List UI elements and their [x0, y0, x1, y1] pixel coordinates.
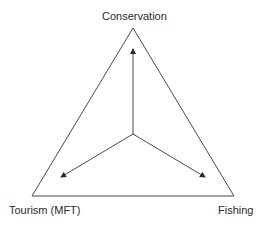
arrow-fishing — [133, 134, 205, 177]
center-node — [132, 133, 133, 134]
vertex-label-tourism: Tourism (MFT) — [9, 205, 81, 216]
vertex-label-conservation: Conservation — [102, 11, 167, 22]
vertex-label-fishing: Fishing — [218, 205, 253, 216]
tradeoff-triangle-diagram — [0, 0, 264, 229]
arrow-tourism — [61, 134, 133, 177]
